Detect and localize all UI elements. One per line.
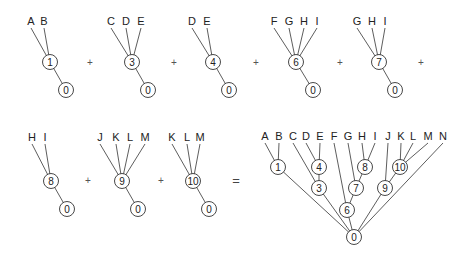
result-leaf-f: F (331, 130, 338, 142)
root-node-0-label: 0 (63, 85, 69, 96)
result-node-3-label: 3 (316, 183, 322, 194)
leaf-k: K (168, 131, 176, 143)
root-node-0-label: 0 (145, 85, 151, 96)
leaf-g: G (353, 15, 362, 27)
result-leaf-j: J (385, 130, 391, 142)
result-node-0-label: 0 (351, 232, 357, 243)
result-leaf-k: K (397, 130, 405, 142)
leaf-d: D (122, 15, 130, 27)
result-leaf-d: D (302, 130, 310, 142)
result-edge-1-0 (278, 167, 354, 237)
result-leaf-a: A (261, 130, 269, 142)
result-leaf-i: I (373, 130, 376, 142)
result-edge-n-0 (354, 143, 443, 237)
node-4-label: 4 (210, 57, 216, 68)
leaf-f: F (271, 15, 278, 27)
root-node-0-label: 0 (206, 204, 212, 215)
leaf-j: J (97, 131, 103, 143)
root-node-0-label: 0 (310, 85, 316, 96)
operators-layer: +++++++= (85, 57, 424, 188)
leaf-i: I (383, 15, 386, 27)
result-node-6-label: 6 (344, 205, 350, 216)
labels-layer: AB10CDE30DE40FGHI60GHI70HI80JKLM90KLM100… (27, 15, 447, 243)
plus-sign: + (337, 57, 343, 68)
plus-sign: + (87, 57, 93, 68)
leaf-b: B (40, 15, 47, 27)
result-node-10-label: 10 (394, 162, 406, 173)
result-edge-f-6 (334, 143, 347, 210)
node-1-label: 1 (47, 57, 53, 68)
node-7-label: 7 (376, 57, 382, 68)
result-node-8-label: 8 (362, 162, 368, 173)
leaf-e: E (137, 15, 144, 27)
leaf-i: I (43, 131, 46, 143)
plus-sign: + (171, 57, 177, 68)
node-10-label: 10 (187, 176, 199, 187)
node-9-label: 9 (119, 176, 125, 187)
result-leaf-n: N (439, 130, 447, 142)
result-leaf-g: G (344, 130, 353, 142)
result-leaf-e: E (316, 130, 323, 142)
result-leaf-m: M (423, 130, 432, 142)
plus-sign: + (253, 57, 259, 68)
leaf-e: E (203, 15, 210, 27)
leaf-l: L (184, 131, 190, 143)
leaf-g: G (285, 15, 294, 27)
root-node-0-label: 0 (64, 204, 70, 215)
result-leaf-b: B (275, 130, 282, 142)
result-leaf-l: L (410, 130, 416, 142)
node-6-label: 6 (293, 57, 299, 68)
root-node-0-label: 0 (135, 204, 141, 215)
result-node-1-label: 1 (275, 162, 281, 173)
result-leaf-c: C (289, 130, 297, 142)
leaf-h: H (28, 131, 36, 143)
root-node-0-label: 0 (392, 85, 398, 96)
plus-sign: + (418, 57, 424, 68)
result-leaf-h: H (358, 130, 366, 142)
tree-decomposition-diagram: AB10CDE30DE40FGHI60GHI70HI80JKLM90KLM100… (0, 0, 468, 259)
leaf-d: D (188, 15, 196, 27)
plus-sign: + (85, 175, 91, 186)
node-3-label: 3 (129, 57, 135, 68)
leaf-c: C (107, 15, 115, 27)
leaf-l: L (127, 131, 133, 143)
leaf-a: A (27, 15, 35, 27)
equals-sign: = (232, 173, 240, 188)
leaf-k: K (112, 131, 120, 143)
leaf-h: H (300, 15, 308, 27)
plus-sign: + (158, 175, 164, 186)
root-node-0-label: 0 (226, 85, 232, 96)
leaf-i: I (315, 15, 318, 27)
leaf-m: M (140, 131, 149, 143)
node-8-label: 8 (48, 176, 54, 187)
result-node-4-label: 4 (316, 162, 322, 173)
result-node-7-label: 7 (353, 183, 359, 194)
leaf-h: H (368, 15, 376, 27)
leaf-m: M (195, 131, 204, 143)
result-node-9-label: 9 (382, 183, 388, 194)
